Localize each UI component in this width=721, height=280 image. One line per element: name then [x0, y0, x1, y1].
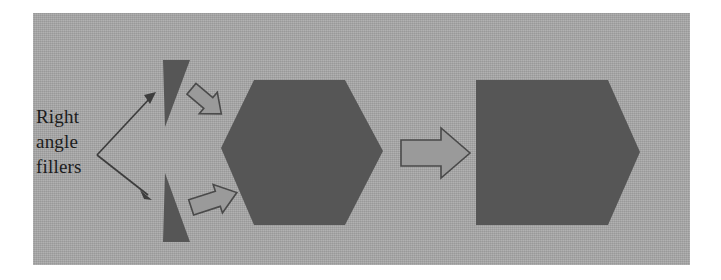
leader-upper-line [97, 96, 152, 155]
leader-lower-arrowhead [140, 190, 152, 200]
right-angle-filler-triangle-top [163, 60, 190, 127]
pentagon-result [476, 80, 640, 225]
assembly-arrow-bottom [187, 178, 242, 221]
right-angle-filler-triangle-bottom [163, 173, 190, 242]
leader-lower-line [97, 155, 148, 195]
figure-container: Right angle fillers [0, 0, 721, 280]
transform-arrow-right [401, 128, 470, 178]
assembly-arrow-top [182, 78, 230, 125]
diagram-vector-layer [0, 0, 721, 280]
hexagon-core [221, 80, 383, 225]
leader-double-arrow [97, 92, 156, 200]
